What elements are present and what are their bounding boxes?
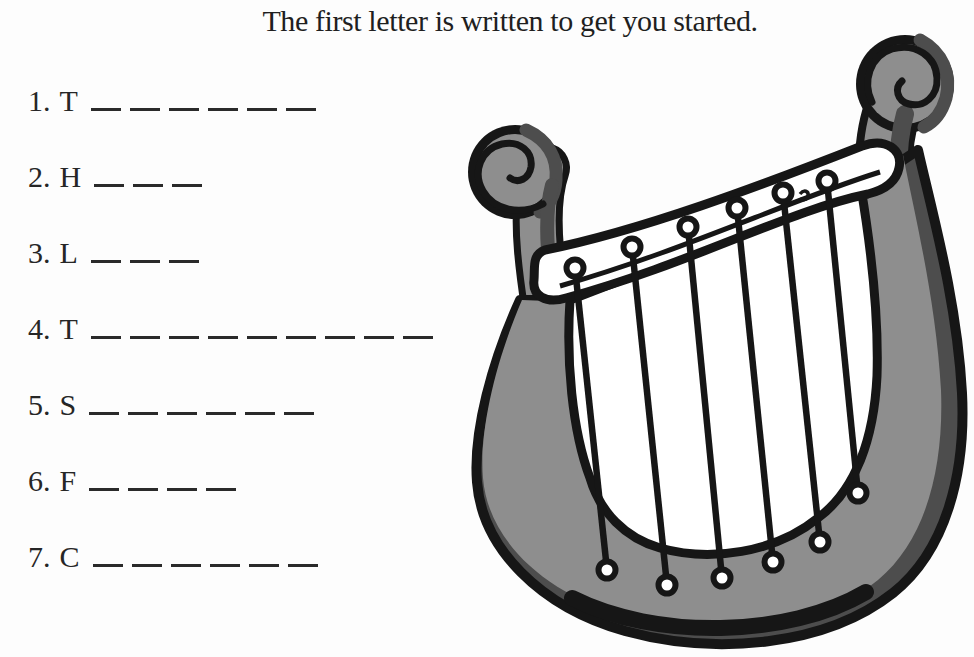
answer-blank [403, 326, 433, 339]
answer-blank [130, 250, 160, 263]
answer-blank [247, 326, 277, 339]
lyre-illustration [440, 27, 974, 657]
answer-blank [169, 250, 199, 263]
list-item: 2. H [28, 160, 442, 236]
answer-blank [169, 98, 199, 111]
item-starting-letter: T [60, 312, 78, 346]
string-anchor [850, 485, 867, 502]
answer-blank [167, 478, 197, 491]
item-starting-letter: T [60, 84, 78, 118]
tuning-peg [567, 260, 584, 277]
answer-blank [206, 478, 236, 491]
answer-blanks [91, 98, 325, 111]
string-anchor [765, 554, 782, 571]
answer-blank [325, 326, 355, 339]
item-number: 7. [28, 540, 51, 574]
item-starting-letter: H [60, 160, 82, 194]
answer-blank [288, 554, 318, 567]
tuning-peg [680, 219, 697, 236]
tuning-peg [775, 185, 792, 202]
answer-blank [210, 554, 240, 567]
tuning-peg [819, 173, 836, 190]
item-number: 1. [28, 84, 51, 118]
answer-blank [93, 554, 123, 567]
answer-blank [133, 174, 163, 187]
answer-blanks [91, 326, 442, 339]
answer-blank [94, 174, 124, 187]
list-item: 1. T [28, 84, 442, 160]
answer-blank [284, 402, 314, 415]
answer-blank [130, 326, 160, 339]
tuning-peg [624, 239, 641, 256]
answer-blank [132, 554, 162, 567]
list-item: 3. L [28, 236, 442, 312]
item-number: 5. [28, 388, 51, 422]
item-number: 4. [28, 312, 51, 346]
list-item: 7. C [28, 540, 442, 616]
answer-blank [364, 326, 394, 339]
item-starting-letter: C [60, 540, 80, 574]
answer-blank [91, 250, 121, 263]
answer-blank [89, 478, 119, 491]
answer-blank [286, 326, 316, 339]
answer-blank [128, 478, 158, 491]
answer-blank [91, 98, 121, 111]
answer-blank [206, 402, 236, 415]
answer-blank [249, 554, 279, 567]
answer-blank [89, 402, 119, 415]
answer-blank [208, 326, 238, 339]
answer-blanks [89, 478, 245, 491]
string-anchor [812, 534, 829, 551]
list-item: 4. T [28, 312, 442, 388]
item-starting-letter: S [60, 388, 77, 422]
worksheet-page: The first letter is written to get you s… [0, 0, 974, 657]
item-number: 3. [28, 236, 51, 270]
answer-blanks [89, 402, 323, 415]
list-item: 6. F [28, 464, 442, 540]
answer-blank [172, 174, 202, 187]
answer-blanks [93, 554, 327, 567]
answer-blank [171, 554, 201, 567]
answer-blank [247, 98, 277, 111]
fill-in-list: 1. T 2. H 3. L 4. T 5. S 6. F [28, 84, 442, 616]
answer-blanks [94, 174, 211, 187]
item-number: 6. [28, 464, 51, 498]
item-number: 2. [28, 160, 51, 194]
answer-blank [91, 326, 121, 339]
tuning-peg [729, 200, 746, 217]
list-item: 5. S [28, 388, 442, 464]
string-anchor [599, 562, 616, 579]
item-starting-letter: L [60, 236, 78, 270]
answer-blank [167, 402, 197, 415]
answer-blank [208, 98, 238, 111]
answer-blank [130, 98, 160, 111]
answer-blank [128, 402, 158, 415]
answer-blank [169, 326, 199, 339]
answer-blank [245, 402, 275, 415]
answer-blanks [91, 250, 208, 263]
string-anchor [714, 570, 731, 587]
answer-blank [286, 98, 316, 111]
string-anchor [659, 577, 676, 594]
item-starting-letter: F [60, 464, 77, 498]
